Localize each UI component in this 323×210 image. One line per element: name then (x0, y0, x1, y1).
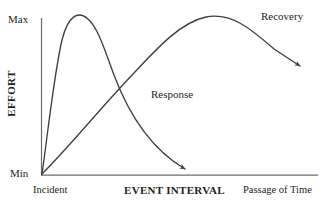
y-axis-min-label: Min (10, 168, 28, 179)
response-curve-label: Response (151, 89, 193, 100)
y-axis-title: EFFORT (6, 70, 17, 117)
x-axis-title: EVENT INTERVAL (124, 185, 225, 196)
recovery-curve-label: Recovery (261, 11, 303, 22)
y-axis-max-label: Max (8, 14, 28, 25)
x-axis-right-label: Passage of Time (243, 185, 312, 196)
effort-event-interval-diagram: Max Min EFFORT Incident EVENT INTERVAL P… (0, 0, 323, 210)
plot-canvas (0, 0, 323, 210)
x-axis-left-label: Incident (33, 185, 67, 196)
